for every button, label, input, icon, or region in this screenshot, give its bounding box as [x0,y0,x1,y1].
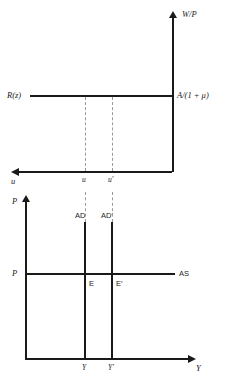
ad-curve-label: AD [75,212,85,220]
upper-x-axis-arrowhead [11,168,19,176]
upper-x-axis-label: u [11,177,15,186]
upper-y-axis [172,18,174,172]
lower-tick-label-y: Y [82,364,86,372]
upper-x-axis [18,171,172,173]
equilibrium-label-e: E [89,280,94,288]
rz-curve-label-right: A/(1 + μ) [177,91,209,100]
lower-y-axis [25,202,27,359]
as-curve-label: AS [179,270,189,278]
upper-y-axis-label: W/P [182,10,197,19]
ad-curve [84,222,86,358]
upper-guide-u [85,97,86,171]
lower-x-axis [25,358,188,360]
equilibrium-label-e-prime: E′ [116,280,122,288]
upper-tick-label-u: u [82,176,86,184]
lower-x-axis-arrowhead [188,355,196,363]
rz-curve [30,95,172,97]
economics-two-panel-figure: W/P u R(z) A/(1 + μ) u u′ P Y AS P AD [0,0,226,389]
upper-tick-label-u-prime: u′ [108,176,113,184]
upper-guide-u-prime [112,97,113,171]
as-curve [25,273,175,275]
lower-guide-ad-prime [112,192,113,222]
lower-price-level-label: P [12,269,17,278]
lower-y-axis-arrowhead [22,195,30,202]
ad-prime-curve [111,222,113,358]
lower-x-axis-label: Y [196,364,201,373]
lower-y-axis-label: P [12,197,17,206]
upper-y-axis-arrowhead [169,11,177,18]
lower-guide-ad [85,192,86,222]
lower-tick-label-y-prime: Y′ [108,364,114,372]
rz-curve-label-left: R(z) [7,91,21,100]
